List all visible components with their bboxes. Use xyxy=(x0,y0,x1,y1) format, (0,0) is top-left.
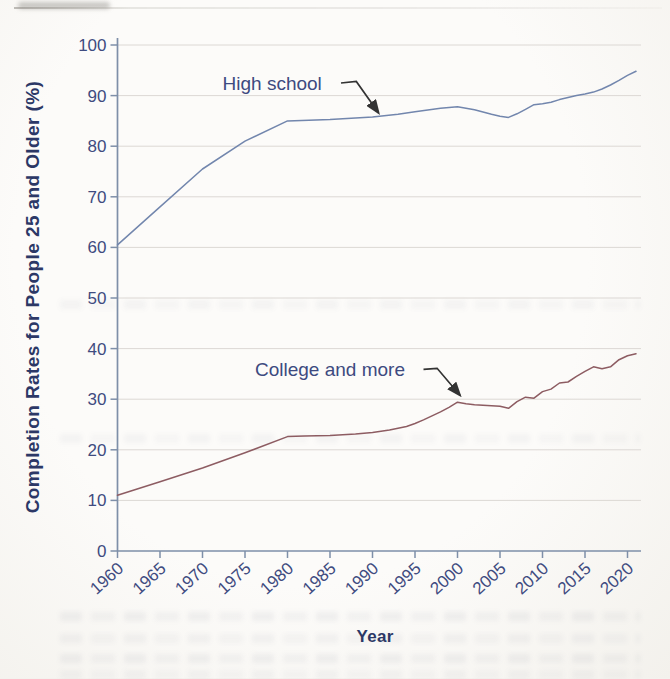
x-tick-label-1975: 1975 xyxy=(214,559,255,598)
y-tick-label-40: 40 xyxy=(88,340,107,359)
y-tick-label-80: 80 xyxy=(88,137,107,156)
y-tick-label-90: 90 xyxy=(88,87,107,106)
y-tick-label-0: 0 xyxy=(97,542,106,561)
x-tick-label-2020: 2020 xyxy=(596,559,637,598)
x-tick-label-1965: 1965 xyxy=(129,559,170,598)
college-annotation-arrow xyxy=(424,368,461,395)
x-axis-title: Year xyxy=(356,627,393,647)
x-tick-label-1990: 1990 xyxy=(341,559,382,598)
x-tick-label-2015: 2015 xyxy=(554,559,595,598)
x-tick-label-1985: 1985 xyxy=(299,559,340,598)
high-school-annotation-arrow xyxy=(341,81,379,112)
x-tick-label-1980: 1980 xyxy=(256,559,297,598)
y-tick-label-60: 60 xyxy=(88,238,107,257)
x-tick-label-1970: 1970 xyxy=(171,559,212,598)
y-tick-label-70: 70 xyxy=(88,188,107,207)
x-tick-label-1995: 1995 xyxy=(384,559,425,598)
y-tick-label-20: 20 xyxy=(88,441,107,460)
high-school-line xyxy=(118,71,637,245)
x-tick-label-2000: 2000 xyxy=(426,559,467,598)
y-tick-label-30: 30 xyxy=(88,390,107,409)
y-tick-label-10: 10 xyxy=(88,491,107,510)
y-axis-title: Completion Rates for People 25 and Older… xyxy=(22,81,44,514)
y-tick-label-50: 50 xyxy=(88,289,107,308)
x-tick-label-2010: 2010 xyxy=(511,559,552,598)
x-tick-label-2005: 2005 xyxy=(469,559,510,598)
x-tick-label-1960: 1960 xyxy=(86,559,127,598)
y-tick-label-100: 100 xyxy=(78,36,106,55)
high-school-series-label: High school xyxy=(223,73,322,95)
college-series-label: College and more xyxy=(255,359,405,381)
